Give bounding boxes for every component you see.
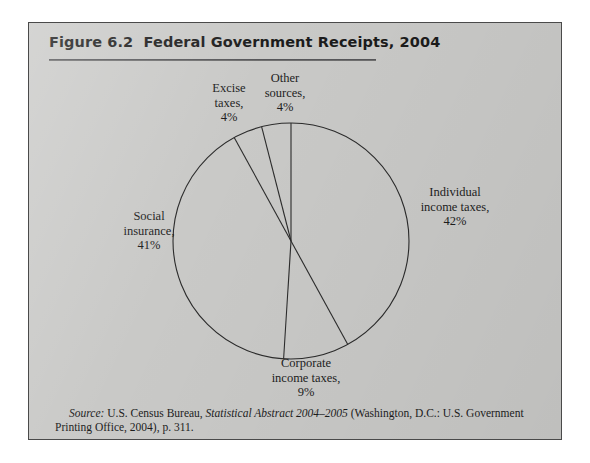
pie-slice-label-corporate-income-taxes: Corporateincome taxes,9% [251, 356, 361, 400]
pie-divider-corporate-social [284, 241, 291, 359]
pie-slice-label-individual-income-taxes: Individualincome taxes,42% [405, 185, 505, 229]
source-note: Source: U.S. Census Bureau, Statistical … [55, 406, 547, 434]
source-body-1: U.S. Census Bureau, [104, 407, 205, 419]
source-publication-title: Statistical Abstract 2004–2005 [206, 407, 348, 419]
pie-slice-label-other-sources: Othersources,4% [254, 71, 316, 115]
figure-panel: Figure 6.2 Federal Government Receipts, … [28, 22, 562, 440]
pie-divider-individual-corporate [291, 241, 348, 345]
pie-divider-social-excise [234, 138, 291, 242]
pie-slice-label-excise-taxes: Excisetaxes,4% [199, 81, 259, 125]
pie-chart: Excisetaxes,4% Othersources,4% Individua… [29, 23, 563, 441]
source-prefix: Source: [69, 407, 104, 419]
pie-slice-label-social-insurance: Socialinsurance,41% [107, 209, 191, 253]
pie-divider-excise-other [262, 127, 291, 241]
